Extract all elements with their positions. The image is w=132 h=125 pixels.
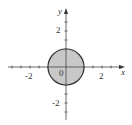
- chart-svg: x y 0 -2 2 2 -2: [0, 0, 132, 125]
- y-tick-label-2: 2: [56, 25, 61, 35]
- graph-plot: x y 0 -2 2 2 -2: [0, 0, 132, 125]
- x-axis-label: x: [120, 67, 125, 77]
- y-tick-label-neg2: -2: [52, 98, 60, 108]
- x-tick-label-2: 2: [99, 71, 104, 81]
- x-tick-label-neg2: -2: [25, 71, 33, 81]
- y-axis-arrow-icon: [64, 8, 68, 14]
- origin-label: 0: [59, 68, 64, 78]
- y-axis-label: y: [57, 6, 62, 16]
